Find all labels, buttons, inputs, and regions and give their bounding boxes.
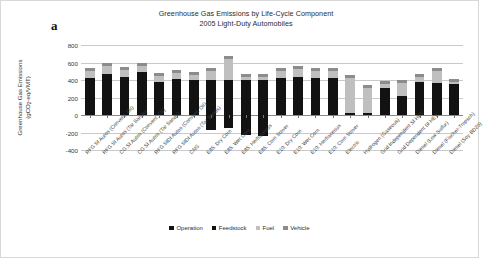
y-axis-tick-label: 0 [75, 112, 78, 119]
bar-segment-vehicle [397, 80, 407, 83]
bar-segment-operation [258, 80, 268, 115]
chart-title: Greenhouse Gas Emissions by Life-Cycle C… [96, 9, 396, 19]
bar-segment-vehicle [172, 70, 182, 73]
bar-segment-fuel [432, 71, 442, 82]
y-axis-title: Greenhouse Gas Emissions (gCO2-eq/VMT) [16, 38, 33, 158]
bar-segment-vehicle [102, 63, 112, 66]
legend-swatch-fuel [256, 226, 261, 231]
bar-segment-vehicle [363, 85, 373, 88]
panel-letter: a [51, 19, 58, 32]
bar-segment-operation [432, 83, 442, 115]
legend-swatch-vehicle [283, 226, 288, 231]
bar-segment-operation [85, 78, 95, 115]
bar-segment-fuel [363, 88, 373, 113]
bar-segment-vehicle [328, 68, 338, 71]
bar-segment-operation [241, 80, 251, 115]
legend-swatch-operation [169, 226, 174, 231]
bar-segment-operation [224, 80, 234, 115]
bar-segment-fuel [380, 84, 390, 89]
legend-label: Vehicle [290, 225, 309, 231]
bar-segment-vehicle [432, 68, 442, 71]
bar-segment-fuel [120, 70, 130, 77]
y-axis-tick-label: 200 [68, 94, 78, 101]
x-axis-tickmark [229, 115, 230, 118]
bar-segment-fuel [449, 82, 459, 84]
x-axis-tickmark [454, 115, 455, 118]
bar-segment-vehicle [258, 74, 268, 77]
x-axis-tickmark [281, 115, 282, 118]
legend-item-operation[interactable]: Operation [169, 225, 202, 231]
bar-segment-vehicle [120, 67, 130, 70]
x-axis-tickmark [368, 115, 369, 118]
bar-segment-fuel [293, 69, 303, 77]
x-axis-tickmark [315, 115, 316, 118]
bar-segment-vehicle [189, 72, 199, 75]
bar-segment-operation [380, 88, 390, 115]
bar-segment-fuel [154, 76, 164, 82]
y-axis-tick-label: -200 [66, 129, 78, 136]
bar-segment-vehicle [449, 79, 459, 82]
bar-segment-vehicle [380, 81, 390, 84]
legend-swatch-feedstock [212, 226, 217, 231]
chart-legend: OperationFeedstockFuelVehicle [1, 225, 478, 231]
bar-segment-vehicle [206, 68, 216, 71]
y-axis-title-line2: (gCO2-eq/VMT) [24, 38, 33, 158]
legend-label: Operation [176, 225, 202, 231]
bar-segment-operation [397, 96, 407, 115]
x-axis-tickmark [263, 115, 264, 118]
x-axis-tickmark [333, 115, 334, 118]
bar-segment-fuel [415, 77, 425, 82]
bar-segment-vehicle [311, 68, 321, 71]
bar-segment-fuel [311, 71, 321, 78]
bar-segment-fuel [137, 66, 147, 73]
legend-label: Fuel [263, 225, 275, 231]
bar-segment-fuel [241, 77, 251, 80]
bar-segment-fuel [85, 71, 95, 78]
x-axis-labels: RFG SI Autos (Convent. Oil)RFG SI Autos … [81, 151, 463, 213]
bar-segment-operation [449, 84, 459, 115]
bar-segment-fuel [397, 83, 407, 96]
bar-segment-vehicle [85, 68, 95, 71]
x-axis-tickmark [107, 115, 108, 118]
chart-title-block: Greenhouse Gas Emissions by Life-Cycle C… [96, 9, 396, 29]
bar-segment-fuel [276, 71, 286, 78]
y-axis-tick-label: -400 [66, 147, 78, 154]
bar-segment-vehicle [137, 63, 147, 66]
x-axis-tickmark [350, 115, 351, 118]
bar-segment-vehicle [345, 75, 355, 78]
bar-segment-fuel [172, 73, 182, 80]
bar-group[interactable] [363, 45, 373, 150]
bar-segment-vehicle [224, 56, 234, 59]
x-axis-tickmark [90, 115, 91, 118]
x-axis-tickmark [246, 115, 247, 118]
y-axis-tick-label: 600 [68, 59, 78, 66]
bar-segment-vehicle [276, 68, 286, 71]
legend-item-fuel[interactable]: Fuel [256, 225, 275, 231]
legend-label: Feedstock [219, 225, 247, 231]
x-axis-tickmark [402, 115, 403, 118]
bar-segment-fuel [206, 71, 216, 80]
bar-group[interactable] [85, 45, 95, 150]
y-axis-tick-label: 400 [68, 77, 78, 84]
bar-segment-vehicle [154, 73, 164, 76]
bar-group[interactable] [206, 45, 216, 150]
bar-segment-fuel [328, 71, 338, 78]
bar-segment-fuel [258, 77, 268, 80]
x-axis-tickmark [385, 115, 386, 118]
bar-segment-vehicle [241, 74, 251, 77]
bar-segment-operation [276, 78, 286, 115]
bar-segment-fuel [224, 59, 234, 80]
bar-segment-operation [102, 74, 112, 115]
bar-segment-fuel [102, 66, 112, 74]
bar-segment-fuel [189, 75, 199, 79]
legend-item-feedstock[interactable]: Feedstock [212, 225, 247, 231]
bar-segment-operation [311, 78, 321, 115]
bar-segment-vehicle [293, 66, 303, 69]
y-axis-title-line1: Greenhouse Gas Emissions [16, 60, 23, 136]
bar-segment-operation [293, 77, 303, 115]
bar-segment-fuel [345, 78, 355, 113]
y-axis-tick-label: 800 [68, 42, 78, 49]
chart-subtitle: 2005 Light-Duty Automobiles [96, 19, 396, 29]
legend-item-vehicle[interactable]: Vehicle [283, 225, 309, 231]
